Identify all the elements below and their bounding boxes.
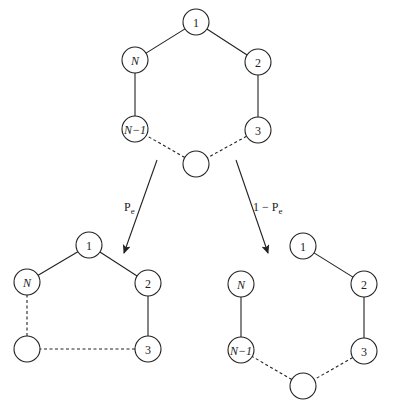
- solid-edge: [146, 29, 185, 53]
- node-3: 3: [135, 336, 161, 362]
- node-label: 1: [86, 239, 92, 253]
- node-label: N: [236, 278, 246, 292]
- node-N: N: [14, 269, 40, 295]
- solid-edge: [100, 252, 137, 276]
- node-label: 2: [145, 277, 151, 291]
- node-label: N−1: [123, 123, 146, 137]
- node-label: 1: [193, 16, 199, 30]
- node-circle: [290, 373, 316, 399]
- node-circle: [183, 151, 209, 177]
- node-label: 3: [255, 124, 261, 138]
- node-1: 1: [183, 9, 209, 35]
- node-label: N−1: [229, 344, 252, 358]
- ring-transition-diagram: 123N−1N Pe1 − Pe 123N 123N−1N: [0, 0, 393, 413]
- node-empty: [14, 336, 40, 362]
- node-label: N: [22, 276, 32, 290]
- node-3: 3: [351, 338, 377, 364]
- node-2: 2: [351, 271, 377, 297]
- dashed-edge: [146, 135, 184, 157]
- node-label: 2: [255, 56, 261, 70]
- node-empty: [290, 373, 316, 399]
- dashed-edge: [314, 357, 352, 379]
- node-Nminus-1: N−1: [122, 116, 148, 142]
- node-label: 3: [361, 345, 367, 359]
- node-1: 1: [76, 232, 102, 258]
- node-Nminus-1: N−1: [228, 337, 254, 363]
- node-label: N: [130, 54, 140, 68]
- node-label: 3: [145, 343, 151, 357]
- node-circle: [14, 336, 40, 362]
- top-ring-graph: 123N−1N: [122, 9, 271, 177]
- dashed-edge: [252, 357, 292, 380]
- node-1: 1: [290, 233, 316, 259]
- node-label: 2: [361, 278, 367, 292]
- node-2: 2: [135, 270, 161, 296]
- solid-edge: [207, 29, 247, 55]
- arrow-label-right: 1 − Pe: [253, 200, 282, 216]
- arrow-label-left: Pe: [124, 200, 135, 216]
- dashed-edge: [207, 136, 246, 157]
- right-result-graph: 123N−1N: [228, 233, 377, 399]
- node-N: N: [122, 47, 148, 73]
- node-label: 1: [300, 240, 306, 254]
- solid-edge: [314, 253, 353, 277]
- left-result-graph: 123N: [14, 232, 161, 362]
- node-empty: [183, 151, 209, 177]
- solid-edge: [38, 252, 78, 276]
- node-N: N: [228, 271, 254, 297]
- node-2: 2: [245, 49, 271, 75]
- node-3: 3: [245, 117, 271, 143]
